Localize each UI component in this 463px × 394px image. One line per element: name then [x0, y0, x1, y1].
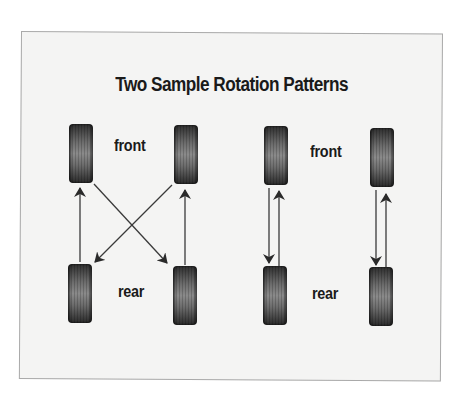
tire-rear-right [173, 266, 197, 325]
label-front: front [310, 143, 341, 161]
tire-front-right [174, 125, 198, 184]
tire-front-left [69, 124, 93, 183]
tire-front-left [264, 126, 288, 185]
tire-rear-left [263, 266, 287, 325]
label-rear: rear [118, 283, 144, 301]
tire-front-right [370, 128, 394, 187]
label-front: front [114, 137, 145, 155]
diagram-title: Two Sample Rotation Patterns [32, 73, 430, 96]
tire-rear-right [369, 267, 393, 326]
tire-rear-left [68, 264, 92, 323]
label-rear: rear [312, 285, 338, 303]
